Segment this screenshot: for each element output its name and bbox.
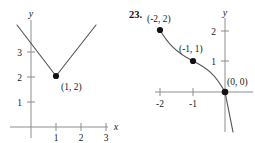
right-graph-figure: 23. -2 -1 2 1 y	[127, 0, 255, 143]
right-point-dot-minus1-1	[190, 58, 196, 64]
right-point-dot-origin	[222, 89, 229, 96]
left-vertex-dot	[53, 73, 59, 79]
right-label-point-minus2-2: (-2, 2)	[147, 14, 171, 25]
left-xtick-label-1: 1	[54, 133, 59, 143]
left-xtick-label-3: 3	[104, 133, 109, 143]
right-graph-svg: 23. -2 -1 2 1 y	[127, 0, 255, 143]
left-ytick-label-2: 2	[17, 73, 22, 83]
left-ytick-label-1: 1	[17, 98, 22, 108]
right-label-point-minus1-1: (-1, 1)	[179, 44, 203, 55]
figure-panel: 1 2 3 3 2 1 y x (1, 2) 23.	[0, 0, 255, 143]
left-graph-svg: 1 2 3 3 2 1 y x (1, 2)	[0, 0, 127, 143]
right-point-dot-minus2-2	[157, 27, 163, 33]
left-ytick-label-3: 3	[17, 48, 22, 58]
left-xtick-label-2: 2	[79, 133, 84, 143]
left-v-curve	[17, 25, 96, 76]
right-xtick-label-minus1: -1	[189, 99, 197, 109]
problem-number-label: 23.	[129, 9, 143, 20]
right-xtick-label-minus2: -2	[156, 99, 164, 109]
left-y-axis-label: y	[28, 8, 34, 19]
left-vertex-label: (1, 2)	[61, 82, 82, 93]
left-x-axis-label: x	[113, 121, 119, 132]
right-y-axis-label: y	[222, 7, 228, 18]
left-graph-figure: 1 2 3 3 2 1 y x (1, 2)	[0, 0, 127, 143]
right-ytick-label-1: 1	[211, 57, 216, 67]
right-ytick-label-2: 2	[211, 27, 216, 37]
right-label-point-origin: (0, 0)	[227, 77, 248, 88]
